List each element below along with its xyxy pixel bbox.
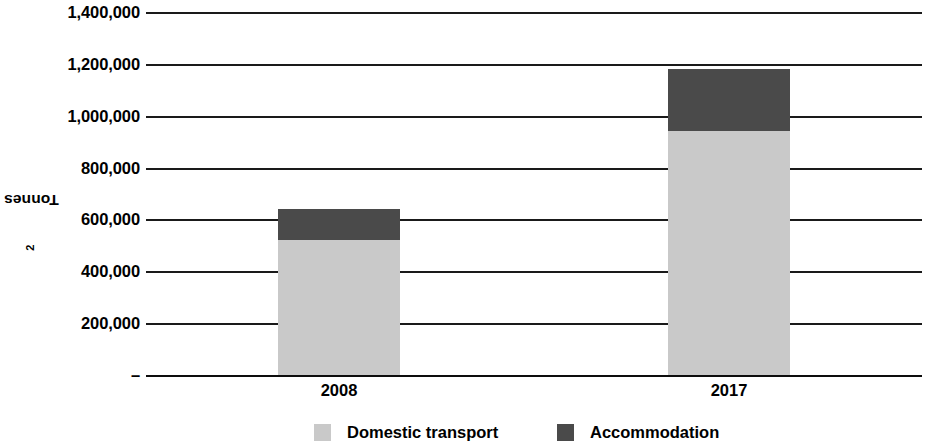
- x-axis-label-2008: 2008: [269, 381, 409, 400]
- legend-label: Domestic transport: [347, 423, 498, 442]
- gridline: [146, 271, 922, 273]
- bar-segment-domestic-transport-2008[interactable]: [278, 240, 400, 375]
- y-axis-tick-label: 1,000,000: [0, 105, 140, 127]
- x-axis-label-2017: 2017: [659, 381, 799, 400]
- plot-area: 1,400,0001,200,0001,000,000800,000600,00…: [0, 0, 926, 400]
- gridline: [146, 219, 922, 221]
- legend-item-domestic-transport[interactable]: Domestic transport: [314, 419, 498, 446]
- gridline: [146, 168, 922, 170]
- y-axis-tick-label: –: [0, 364, 140, 386]
- y-axis-tick-label: 600,000: [0, 208, 140, 230]
- gridline: [146, 64, 922, 66]
- legend-item-accommodation[interactable]: Accommodation: [557, 419, 719, 446]
- y-axis-tick-label: 200,000: [0, 312, 140, 334]
- legend-swatch-icon: [557, 424, 574, 441]
- gridline: [146, 12, 922, 14]
- y-axis-tick-label: 1,200,000: [0, 53, 140, 75]
- axis-baseline: [146, 375, 922, 377]
- bar-segment-accommodation-2017[interactable]: [668, 69, 790, 131]
- y-axis-tick-label: 1,400,000: [0, 1, 140, 23]
- legend-label: Accommodation: [590, 423, 719, 442]
- bar-2017[interactable]: [668, 69, 790, 375]
- chart-legend: Domestic transportAccommodation: [0, 419, 926, 446]
- bar-2008[interactable]: [278, 209, 400, 375]
- legend-swatch-icon: [314, 424, 331, 441]
- gridline: [146, 323, 922, 325]
- y-axis-tick-label: 800,000: [0, 157, 140, 179]
- stacked-bar-chart: Tonnes of CO2 1,400,0001,200,0001,000,00…: [0, 0, 926, 446]
- bar-segment-accommodation-2008[interactable]: [278, 209, 400, 240]
- bar-segment-domestic-transport-2017[interactable]: [668, 131, 790, 375]
- y-axis-tick-label: 400,000: [0, 260, 140, 282]
- gridline: [146, 116, 922, 118]
